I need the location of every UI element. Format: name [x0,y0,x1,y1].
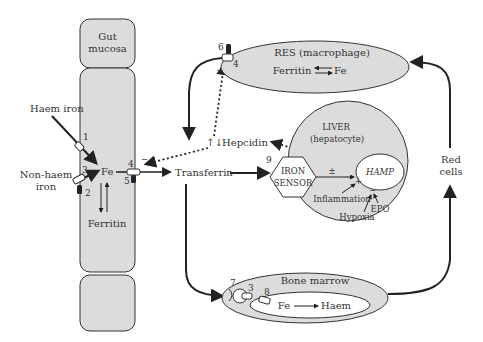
gut-cell-bottom [80,275,135,331]
epo-label: EPO [371,204,390,214]
hepcidin-arrows: ↑↓ [206,137,223,148]
bone-marrow-haem-label: Haem [321,300,352,311]
inflammation-label: Inflammation [313,194,371,204]
marker-9: 9 [266,155,272,165]
gut-fe-label: Fe [101,166,113,177]
liver-title-1: LIVER [322,122,350,132]
marker-1: 1 [83,132,89,142]
iron-metabolism-diagram: Gut mucosa Haem iron 1 Non-haem iron 3 2… [0,0,483,342]
haem-iron-label: Haem iron [30,103,84,114]
bone-marrow-title: Bone marrow [281,275,350,286]
transporter-2 [77,185,82,194]
gut-minus-sign: − [141,154,148,164]
res-fe-label: Fe [334,65,346,76]
non-haem-iron-label-1: Non-haem [20,169,73,180]
inflammation-sign: + [355,176,362,186]
liver-hepatocyte: LIVER (hepatocyte) IRON SENSOR 9 HAMP ± … [266,101,408,222]
res-macrophage: RES (macrophage) Ferritin Fe [221,41,409,93]
hepcidin-to-gut-dotted [146,148,208,164]
red-cells-label-2: cells [439,166,462,177]
res-minus-sign: − [216,65,223,75]
transporter-5 [131,175,136,183]
res-title: RES (macrophage) [274,47,370,58]
marker-2: 2 [85,188,91,198]
marker-4-gut: 4 [128,159,134,169]
transporter-6 [226,44,231,54]
iron-sensor-label-1: IRON [281,166,306,176]
hamp-label: HAMP [365,167,394,177]
transporter-3-bm [242,293,252,299]
marker-5: 5 [124,176,130,186]
hepcidin-label: Hepcidin [222,137,268,148]
gut-ferritin-label: Ferritin [88,218,127,229]
non-haem-iron-label-2: iron [36,181,57,192]
marker-3-bm: 3 [248,283,254,293]
marker-3: 3 [82,165,88,175]
marker-6: 6 [218,42,224,52]
sensor-plus-minus: ± [328,166,335,176]
marker-8: 8 [264,287,270,297]
iron-sensor-label-2: SENSOR [274,178,313,188]
liver-title-2: (hepatocyte) [310,134,364,144]
red-cells-label-1: Red [441,154,461,165]
bone-marrow: Bone marrow Fe Haem 7 3 8 [222,273,388,323]
marker-7: 7 [230,278,236,288]
gut-title-2: mucosa [88,43,127,54]
res-ferritin-label: Ferritin [273,65,312,76]
marker-4-res: 4 [233,59,239,69]
transporter-4-gut [127,169,140,175]
transporter-4-res [222,54,233,61]
transferrin-to-bone-marrow-arrow [186,184,222,296]
transferrin-label: Transferrin [175,167,233,178]
red-cells-to-res-arrow [412,62,450,148]
hepcidin-to-res-dotted [214,65,224,136]
hypoxia-label: Hypoxia [339,212,374,222]
gut-title-1: Gut [98,31,116,42]
bone-marrow-fe-label: Fe [278,300,290,311]
hypoxia-sign: − [369,185,376,195]
bone-marrow-to-red-cells-arrow [388,187,450,294]
